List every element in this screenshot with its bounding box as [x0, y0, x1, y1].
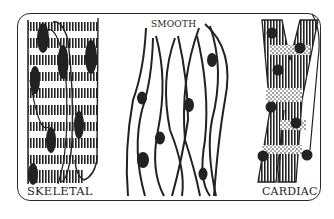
- label-smooth: SMOOTH: [150, 20, 197, 29]
- cardiac-muscle-drawing: [258, 14, 320, 182]
- smooth-muscle-nuclei: [137, 53, 217, 181]
- smooth-muscle-drawing: [127, 24, 228, 196]
- label-skeletal: SKELETAL: [27, 186, 92, 198]
- label-cardiac: CARDIAC: [262, 186, 318, 197]
- skeletal-muscle-drawing: [28, 18, 98, 185]
